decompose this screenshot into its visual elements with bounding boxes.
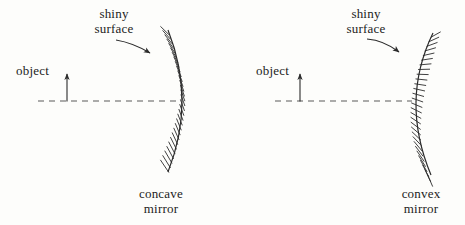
- concave-mirror-caption: concave mirror: [120, 186, 202, 216]
- convex-mirror-caption: convex mirror: [382, 186, 460, 216]
- concave-shiny-surface-label: shiny surface: [84, 6, 144, 36]
- convex-mirror-diagram: [275, 32, 441, 187]
- convex-shiny-surface-label: shiny surface: [336, 6, 396, 36]
- concave-shiny-surface-pointer-arrow: [116, 40, 150, 53]
- convex-shiny-surface-label-line2: surface: [336, 21, 396, 36]
- concave-mirror-hatching: [160, 26, 185, 172]
- concave-shiny-surface-label-line1: shiny: [84, 6, 144, 21]
- convex-shiny-surface-label-line1: shiny: [336, 6, 396, 21]
- convex-object-label: object: [256, 63, 289, 78]
- convex-mirror-hatching: [411, 32, 441, 187]
- convex-mirror-caption-line1: convex: [382, 186, 460, 201]
- concave-mirror-caption-line2: mirror: [120, 201, 202, 216]
- concave-shiny-surface-label-line2: surface: [84, 21, 144, 36]
- concave-mirror-caption-line1: concave: [120, 186, 202, 201]
- concave-mirror-diagram: [38, 26, 185, 172]
- convex-shiny-surface-pointer-arrow: [367, 39, 399, 52]
- convex-mirror-caption-line2: mirror: [382, 201, 460, 216]
- concave-object-label: object: [16, 63, 49, 78]
